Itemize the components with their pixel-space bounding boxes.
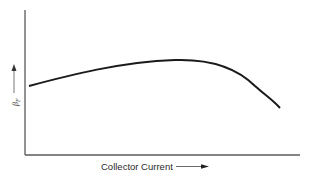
x-label-text: Collector Current bbox=[101, 161, 173, 172]
beta-vs-collector-current-chart: βF Collector Current bbox=[0, 0, 314, 178]
chart-canvas: βF Collector Current bbox=[0, 0, 314, 178]
y-label-text: βF bbox=[11, 98, 21, 107]
y-axis-label: βF bbox=[11, 64, 21, 107]
beta-curve bbox=[29, 60, 280, 108]
y-label-arrow-icon bbox=[12, 64, 17, 71]
x-label-arrow-icon bbox=[201, 164, 209, 168]
x-axis-label: Collector Current bbox=[101, 161, 209, 172]
